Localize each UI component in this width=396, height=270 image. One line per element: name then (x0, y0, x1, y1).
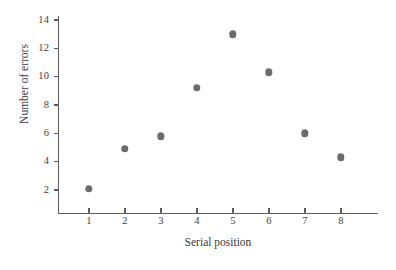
y-tick-label: 14 (19, 14, 49, 25)
data-point (337, 154, 344, 161)
data-point (157, 132, 164, 139)
y-tick-mark (54, 76, 59, 77)
x-tick-label: 8 (326, 215, 356, 226)
x-tick-label: 1 (74, 215, 104, 226)
scatter-chart-figure: 2468101214 12345678 Number of errors Ser… (0, 0, 396, 270)
x-tick-mark (232, 208, 233, 213)
x-tick-label: 3 (146, 215, 176, 226)
y-tick-label: 2 (19, 184, 49, 195)
x-axis-line (58, 213, 378, 214)
y-axis-title: Number of errors (18, 24, 30, 144)
y-tick-mark (54, 104, 59, 105)
plot-area: 2468101214 12345678 Number of errors Ser… (0, 0, 396, 270)
y-tick-mark (54, 161, 59, 162)
x-tick-mark (304, 208, 305, 213)
x-tick-mark (160, 208, 161, 213)
x-tick-mark (268, 208, 269, 213)
data-point (121, 145, 128, 152)
x-tick-mark (124, 208, 125, 213)
data-point (193, 84, 200, 91)
y-tick-mark (54, 48, 59, 49)
y-tick-mark (54, 133, 59, 134)
data-point (229, 30, 236, 37)
data-point (301, 130, 308, 137)
x-tick-mark (340, 208, 341, 213)
y-axis-line (58, 16, 59, 214)
x-tick-mark (88, 208, 89, 213)
y-tick-label: 4 (19, 155, 49, 166)
y-tick-mark (54, 19, 59, 20)
y-tick-mark (54, 189, 59, 190)
x-tick-label: 4 (182, 215, 212, 226)
x-tick-label: 7 (290, 215, 320, 226)
x-tick-label: 5 (218, 215, 248, 226)
data-point (85, 185, 92, 192)
data-point (265, 69, 272, 76)
x-tick-label: 2 (110, 215, 140, 226)
x-tick-mark (196, 208, 197, 213)
x-tick-label: 6 (254, 215, 284, 226)
x-axis-title: Serial position (58, 236, 378, 248)
